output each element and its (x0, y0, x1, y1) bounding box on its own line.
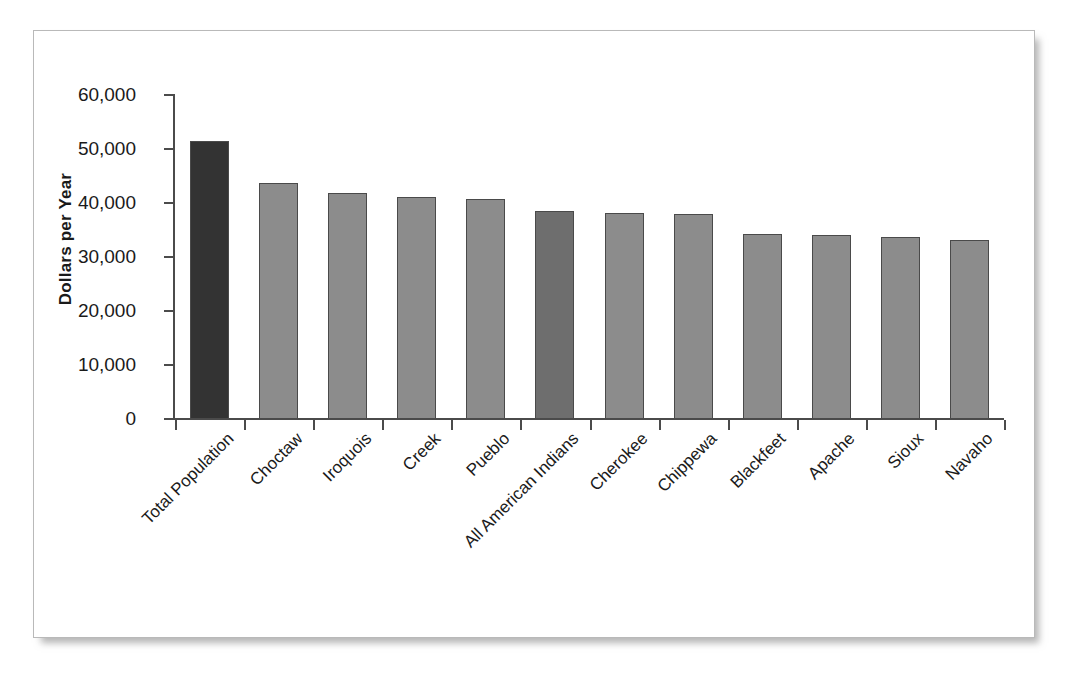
x-axis-tick-mark (175, 420, 177, 430)
x-axis-category-label-text: Iroquois (319, 429, 376, 486)
x-axis-category-label-text: Total Population (138, 429, 238, 529)
bar (397, 197, 436, 419)
chart-figure-frame: Dollars per Year 60,00050,00040,00030,00… (33, 30, 1035, 638)
bar (535, 211, 574, 419)
bar (950, 240, 989, 419)
bar-chart-plot-area: Dollars per Year 60,00050,00040,00030,00… (34, 31, 1034, 637)
x-axis-category-label-text: Choctaw (246, 429, 307, 490)
x-axis-category-label-text: Navaho (942, 429, 998, 485)
x-axis-category-label-text: Creek (399, 429, 445, 475)
bar (466, 199, 505, 419)
x-axis-category-label-text: All American Indians (460, 429, 583, 552)
bar (190, 141, 229, 419)
x-axis-category-label-text: Apache (805, 429, 860, 484)
bar-series (34, 31, 1034, 419)
x-axis-category-label-text: Sioux (884, 429, 928, 473)
bar (328, 193, 367, 419)
x-axis-category-label-text: Cherokee (586, 429, 652, 495)
x-axis-category-label-text: Pueblo (462, 429, 514, 481)
x-axis-category-label-text: Chippewa (654, 429, 722, 497)
x-axis-category-label-text: Blackfeet (727, 429, 791, 493)
